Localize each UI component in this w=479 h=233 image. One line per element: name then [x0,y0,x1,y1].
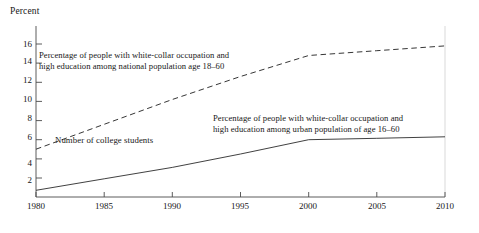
y-tick-label-4: 4 [14,159,32,168]
x-tick-label-1990: 1990 [152,202,192,211]
y-tick-label-2: 2 [14,176,32,185]
annotation-national-population: Percentage of people with white-collar o… [39,50,229,73]
annotation-college-students: Number of college students [55,135,153,146]
y-tick-label-8: 8 [14,114,32,123]
annotation-national-line1: Percentage of people with white-collar o… [39,50,229,61]
y-tick-label-16: 16 [14,40,32,49]
x-axis-ticks [36,192,445,197]
annotation-urban-line2: high education among urban population of… [213,124,403,135]
y-axis-title: Percent [10,6,40,16]
x-tick-label-2010: 2010 [425,202,465,211]
y-tick-label-10: 10 [14,95,32,104]
annotation-national-line2: high education among national population… [39,61,229,72]
x-tick-label-1985: 1985 [84,202,124,211]
y-tick-label-14: 14 [14,57,32,66]
x-tick-label-2000: 2000 [288,202,328,211]
y-tick-label-12: 12 [14,76,32,85]
x-tick-label-2005: 2005 [357,202,397,211]
x-tick-label-1980: 1980 [16,202,56,211]
annotation-urban-population: Percentage of people with white-collar o… [213,113,403,136]
x-tick-label-1995: 1995 [220,202,260,211]
chart-figure: Percent 16 14 12 10 8 6 4 2 1980 1985 19… [0,0,479,233]
y-tick-label-6: 6 [14,133,32,142]
annotation-urban-line1: Percentage of people with white-collar o… [213,113,403,124]
